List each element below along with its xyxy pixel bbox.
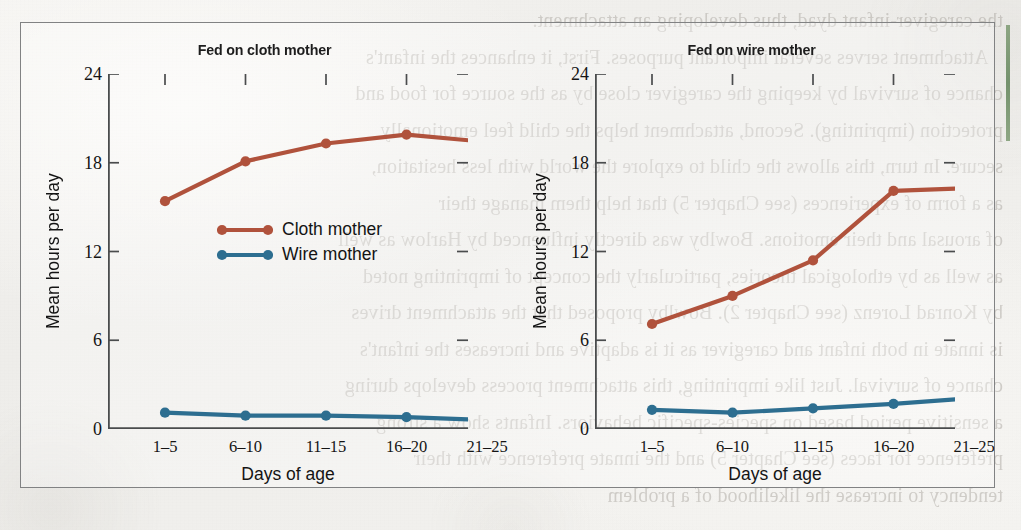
data-point xyxy=(240,411,250,421)
legend-left: Cloth motherWire mother xyxy=(217,219,382,269)
x-tick-label: 16–20 xyxy=(386,437,427,457)
data-point xyxy=(647,319,657,329)
data-point xyxy=(240,156,250,166)
x-tick-label: 1–5 xyxy=(153,437,178,457)
y-tick-label: 24 xyxy=(571,64,589,85)
x-tick-labels-right: 1–56–1011–1516–2021–25 xyxy=(595,437,955,463)
data-point xyxy=(401,412,411,422)
x-tick-labels-left: 1–56–1011–1516–2021–25 xyxy=(108,437,468,463)
series-line-wire-mother xyxy=(165,413,468,420)
y-axis-label-right-text: Mean hours per day xyxy=(530,74,551,429)
legend-swatch xyxy=(217,246,273,264)
x-tick-label: 1–5 xyxy=(640,437,665,457)
x-tick-label: 6–10 xyxy=(716,437,749,457)
panel-title-left: Fed on cloth mother xyxy=(40,41,488,59)
y-tick-labels-left: 06121824 xyxy=(64,74,102,429)
x-tick-label: 11–15 xyxy=(793,437,834,457)
data-point xyxy=(401,130,411,140)
line-chart-svg-right xyxy=(595,74,955,429)
legend-entry: Cloth mother xyxy=(217,219,382,240)
data-point xyxy=(321,138,331,148)
data-point xyxy=(888,186,898,196)
x-tick-label: 6–10 xyxy=(229,437,262,457)
y-tick-label: 18 xyxy=(571,152,589,173)
x-tick-label: 11–15 xyxy=(306,437,347,457)
y-tick-label: 12 xyxy=(571,241,589,262)
legend-label: Cloth mother xyxy=(282,219,382,240)
data-point xyxy=(321,411,331,421)
data-point xyxy=(888,399,898,409)
y-tick-label: 0 xyxy=(580,419,589,440)
series-line-wire-mother xyxy=(652,398,955,413)
plot-area-right xyxy=(595,74,955,429)
chart-panel-cloth-mother: Fed on cloth mother Mean hours per day 0… xyxy=(21,23,508,489)
data-point xyxy=(808,255,818,265)
y-tick-label: 12 xyxy=(84,241,102,262)
green-margin-rule xyxy=(1006,25,1010,141)
x-tick-label: 21–25 xyxy=(953,437,994,457)
data-point xyxy=(727,291,737,301)
chart-panel-wire-mother: Fed on wire mother Mean hours per day 06… xyxy=(508,23,995,489)
y-tick-label: 18 xyxy=(84,152,102,173)
y-tick-label: 6 xyxy=(93,330,102,351)
legend-label: Wire mother xyxy=(282,244,377,265)
y-axis-label-left-text: Mean hours per day xyxy=(43,74,64,429)
figure-frame: Fed on cloth mother Mean hours per day 0… xyxy=(20,22,995,488)
series-line-cloth-mother xyxy=(652,188,955,324)
legend-swatch xyxy=(217,221,273,239)
data-point xyxy=(727,408,737,418)
x-tick-label: 16–20 xyxy=(873,437,914,457)
data-point xyxy=(160,196,170,206)
x-axis-label-right: Days of age xyxy=(595,464,955,485)
y-tick-label: 6 xyxy=(580,330,589,351)
data-point xyxy=(647,405,657,415)
y-tick-label: 0 xyxy=(93,419,102,440)
data-point xyxy=(808,403,818,413)
data-point xyxy=(160,408,170,418)
panel-title-right: Fed on wire mother xyxy=(527,41,975,59)
x-axis-label-left: Days of age xyxy=(108,464,468,485)
series-line-cloth-mother xyxy=(165,135,468,202)
y-tick-label: 24 xyxy=(84,64,102,85)
x-tick-label: 21–25 xyxy=(466,437,507,457)
legend-entry: Wire mother xyxy=(217,244,382,265)
y-tick-labels-right: 06121824 xyxy=(551,74,589,429)
